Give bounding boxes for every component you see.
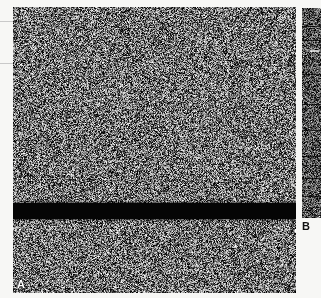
panel-b — [302, 8, 321, 218]
panel-b-separator — [302, 196, 321, 197]
panel-a-black-band — [13, 203, 296, 219]
panel-b-label: B — [302, 221, 310, 232]
panel-b-separator — [302, 26, 321, 27]
margin-tick-line-2 — [0, 63, 13, 64]
panel-a-noise-field — [13, 7, 296, 293]
margin-tick-line-1 — [0, 21, 13, 22]
panel-b-separator — [302, 156, 321, 157]
panel-b-separator — [302, 40, 321, 41]
panel-b-highlight-mark — [310, 50, 319, 52]
panel-b-separator — [302, 178, 321, 179]
panel-a: A — [13, 7, 296, 293]
panel-b-separator — [302, 104, 321, 105]
figure-container: A B — [0, 0, 321, 298]
panel-b-separator — [302, 130, 321, 131]
panel-a-label: A — [17, 279, 25, 290]
panel-b-separator — [302, 74, 321, 75]
